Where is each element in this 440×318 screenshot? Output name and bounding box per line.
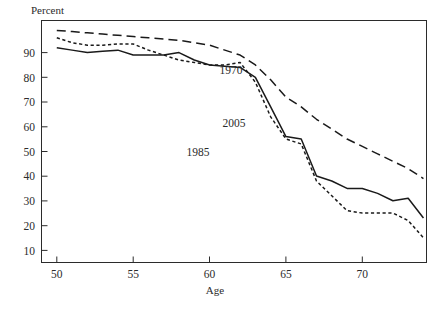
x-tick-label: 70	[357, 268, 369, 280]
series-line-1970	[57, 30, 424, 178]
chart-container: 90 80 70 60 50 40 30 20 10 50 55 60 65 7…	[0, 0, 440, 318]
x-tick-label: 55	[127, 268, 139, 280]
y-tick-label: 80	[24, 72, 36, 84]
y-tick-label: 90	[24, 47, 36, 59]
x-tick-label: 60	[204, 268, 216, 280]
series-annotations: 1970 2005 1985	[187, 64, 246, 158]
x-tick-label: 65	[280, 268, 292, 280]
line-chart: 90 80 70 60 50 40 30 20 10 50 55 60 65 7…	[0, 0, 440, 318]
series-label-2005: 2005	[223, 117, 246, 129]
y-axis-ticks	[42, 53, 48, 251]
x-axis-ticks	[57, 257, 363, 263]
x-tick-label: 50	[51, 268, 63, 280]
y-tick-label: 10	[24, 245, 36, 257]
y-tick-label: 20	[24, 220, 36, 232]
series-label-1970: 1970	[220, 64, 243, 76]
x-axis-title: Age	[206, 284, 224, 296]
series-label-1985: 1985	[187, 146, 210, 158]
y-axis-tick-labels: 90 80 70 60 50 40 30 20 10	[24, 47, 36, 257]
series-group	[57, 30, 424, 237]
y-tick-label: 70	[24, 96, 36, 108]
y-tick-label: 60	[24, 121, 36, 133]
y-tick-label: 40	[24, 170, 36, 182]
plot-frame	[42, 21, 427, 263]
x-axis-tick-labels: 50 55 60 65 70	[51, 268, 368, 280]
y-tick-label: 30	[24, 195, 36, 207]
y-axis-title: Percent	[31, 4, 64, 16]
y-tick-label: 50	[24, 146, 36, 158]
